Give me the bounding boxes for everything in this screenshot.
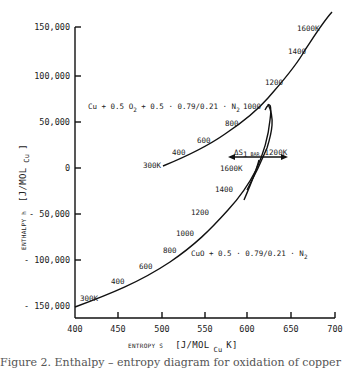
x-tick-label: 450 — [110, 324, 125, 334]
temp-label: 1600K — [297, 24, 320, 33]
x-tick-label: 650 — [283, 324, 298, 334]
axes — [75, 27, 335, 318]
y-tick-label: 0 — [65, 163, 70, 173]
temp-label: 800 — [225, 119, 239, 128]
temp-label: 600 — [139, 262, 153, 271]
temp-label: 1600K — [220, 164, 243, 173]
temp-label: 400 — [172, 148, 186, 157]
temp-label: 300K — [143, 161, 162, 170]
temp-label: 1200 — [265, 78, 284, 87]
temp-label: 800 — [163, 246, 177, 255]
svg-text:ENTROPY S [J/MOL C: ENTROPY S [J/MOL Cu K] — [128, 340, 238, 354]
label-upper-formula: Cu + 0.5 O2 + 0.5 · 0.79/0.21 · N2 — [88, 102, 240, 113]
x-tick-label: 550 — [197, 324, 212, 334]
temp-label: 300K — [80, 294, 99, 303]
temp-label: 1200 — [191, 208, 210, 217]
curve-cuo-upper-branch — [247, 104, 272, 190]
temp-label: 1400 — [288, 47, 307, 56]
y-title-main: ENTHALPY h — [20, 211, 27, 250]
y-tick-label: - 150,000 — [24, 301, 70, 311]
figure-caption: Figure 2. Enthalpy – entropy diagram for… — [0, 356, 358, 369]
y-tick-label: 150,000 — [34, 22, 70, 32]
x-tick-label: 600 — [239, 324, 254, 334]
temp-label: 1000 — [176, 229, 195, 238]
label-lower-formula: CuO + 0.5 · 0.79/0.21 · N2 — [191, 249, 308, 260]
x-ticks — [118, 312, 335, 318]
y-tick-label: 50,000 — [39, 117, 70, 127]
curve-cu-reactants — [163, 12, 332, 166]
upper-temp-labels: 300K 400 600 800 1000 1200 1400 1600K — [143, 24, 320, 170]
temp-label: 600 — [197, 136, 211, 145]
temp-label: 400 — [111, 277, 125, 286]
y-tick-label: 100,000 — [34, 71, 70, 81]
x-tick-label: 500 — [154, 324, 169, 334]
y-tick-labels: 150,000 100,000 50,000 0 - 50,000 - 100,… — [24, 22, 70, 311]
y-ticks — [75, 27, 81, 260]
temp-label: 1000 — [243, 102, 262, 111]
y-axis-title: ENTHALPY h [J/MOL Cu ] — [18, 144, 31, 250]
svg-text:ENTHALPY h [J/MOL: ENTHALPY h [J/MOL Cu ] — [18, 144, 31, 250]
x-title-main: ENTROPY S — [128, 342, 163, 349]
x-tick-labels: 400 450 500 550 600 650 700 — [67, 324, 342, 334]
x-tick-label: 700 — [327, 324, 342, 334]
curve-cuo-1600-branch — [244, 160, 259, 200]
curve-cuo-products — [75, 105, 271, 307]
temp-label: 1400 — [215, 185, 234, 194]
y-tick-label: - 50,000 — [29, 209, 70, 219]
y-tick-label: - 100,000 — [24, 255, 70, 265]
lower-temp-labels: 300K 400 600 800 1000 1200 1400 1600K — [80, 164, 243, 303]
enthalpy-entropy-chart: 150,000 100,000 50,000 0 - 50,000 - 100,… — [0, 0, 358, 369]
x-axis-title: ENTROPY S [J/MOL Cu K] — [128, 340, 238, 354]
x-tick-label: 400 — [67, 324, 82, 334]
